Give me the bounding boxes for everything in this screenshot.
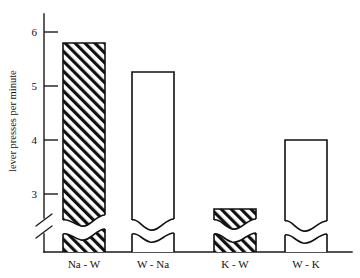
x-label-w-k: W - K: [292, 258, 319, 270]
y-tick-label-4: 4: [32, 134, 38, 146]
bar-w-k-upper-fill: [285, 140, 327, 231]
bar-w-na-upper-fill: [132, 72, 174, 230]
y-axis-title: lever presses per minute: [7, 70, 18, 172]
x-label-w-na: W - Na: [137, 258, 169, 270]
bar-w-na: [132, 72, 174, 252]
bar-w-k: [285, 140, 327, 252]
chart-canvas: lever presses per minute 6 5 4 3: [0, 0, 360, 278]
y-tick-label-6: 6: [32, 26, 38, 38]
bar-na-w: [63, 43, 105, 252]
x-label-k-w: K - W: [221, 258, 249, 270]
bar-chart: lever presses per minute 6 5 4 3: [0, 0, 360, 278]
y-tick-label-3: 3: [32, 188, 38, 200]
x-label-na-w: Na - W: [68, 258, 101, 270]
y-tick-label-5: 5: [32, 80, 38, 92]
bar-na-w-upper-fill: [63, 43, 105, 226]
bar-k-w: [214, 209, 256, 252]
bar-k-w-upper-fill: [214, 209, 256, 229]
